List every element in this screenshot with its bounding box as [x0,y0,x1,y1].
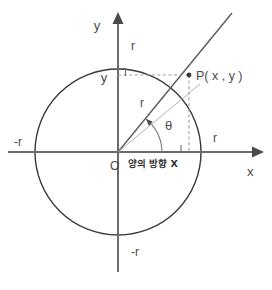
radius-label-left: -r [14,135,22,149]
unit-circle-figure: y r r -r -r r y P( x , y ) O θ 양의 방향 X x [0,0,272,290]
x-axis-arrowhead [252,147,264,158]
right-angle-marker-x-axis [181,145,189,152]
y-projection-label: y [101,70,108,85]
unit-circle-diagram: y r r -r -r r y P( x , y ) O θ 양의 방향 X x [0,0,272,290]
y-axis-label: y [94,18,101,33]
y-axis-arrowhead [113,12,124,24]
point-p-marker [187,73,192,78]
positive-direction-label: 양의 방향 X [128,158,179,169]
radius-label-top: r [131,39,135,53]
radius-guide-line [118,84,200,152]
radius-segment-label: r [140,96,144,110]
radius-label-right: r [213,131,217,145]
theta-label: θ [165,118,172,133]
x-axis-label: x [247,164,254,179]
point-p-label: P( x , y ) [196,69,243,83]
origin-label: O [110,159,119,173]
radius-label-bottom: -r [131,245,139,259]
